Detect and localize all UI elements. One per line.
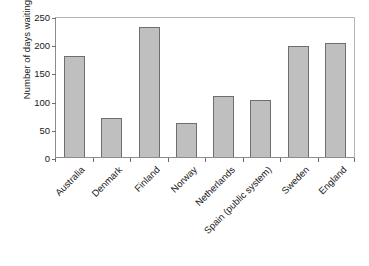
x-axis-labels: AustraliaDenmarkFinlandNorwayNetherlands… — [55, 162, 355, 262]
bar-slot — [317, 18, 354, 157]
bar-finland — [139, 27, 160, 157]
bar-sweden — [288, 46, 309, 157]
bar-australia — [64, 56, 85, 157]
bar-slot — [168, 18, 205, 157]
bar-slot — [131, 18, 168, 157]
x-axis-label: Denmark — [89, 164, 124, 199]
bar-slot — [56, 18, 93, 157]
y-tick-label: 200 — [34, 40, 50, 51]
y-tick-label: 0 — [45, 153, 50, 164]
y-tick-label: 150 — [34, 68, 50, 79]
bar-denmark — [101, 118, 122, 157]
bar-netherlands — [213, 96, 234, 157]
bar-spain-public-system — [250, 100, 271, 157]
x-axis-label: Norway — [168, 164, 199, 195]
bar-slot — [93, 18, 130, 157]
x-axis-label: Spain (public system) — [202, 164, 274, 236]
x-axis-label: Finland — [132, 164, 162, 194]
y-tick-label: 50 — [39, 125, 50, 136]
x-axis-label: Sweden — [279, 164, 311, 196]
x-axis-label: England — [317, 164, 349, 196]
bar-slot — [205, 18, 242, 157]
bars-container — [56, 18, 354, 157]
x-axis-label: Australia — [53, 164, 87, 198]
bar-norway — [176, 123, 197, 157]
y-tick-label: 100 — [34, 97, 50, 108]
y-tick-label: 250 — [34, 12, 50, 23]
bar-slot — [280, 18, 317, 157]
bar-chart-figure: Number of days waiting 050100150200250 A… — [0, 0, 369, 266]
y-axis-title: Number of days waiting — [21, 0, 32, 120]
bar-slot — [242, 18, 279, 157]
plot-area: 050100150200250 — [55, 17, 355, 158]
bar-england — [325, 43, 346, 157]
